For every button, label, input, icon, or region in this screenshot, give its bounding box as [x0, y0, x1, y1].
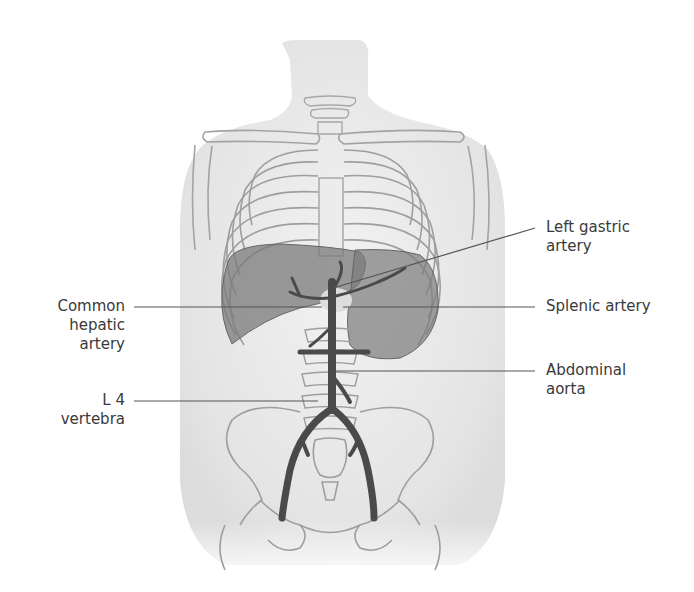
sternum	[319, 178, 343, 256]
anatomy-figure: Left gastric artery Common hepatic arter…	[0, 0, 694, 592]
label-left-gastric-artery: Left gastric artery	[546, 218, 630, 256]
label-common-hepatic-artery: Common hepatic artery	[30, 297, 125, 354]
label-l4-vertebra: L 4 vertebra	[30, 391, 125, 429]
label-abdominal-aorta: Abdominal aorta	[546, 361, 626, 399]
torso-illustration	[0, 0, 694, 592]
label-splenic-artery: Splenic artery	[546, 297, 651, 316]
